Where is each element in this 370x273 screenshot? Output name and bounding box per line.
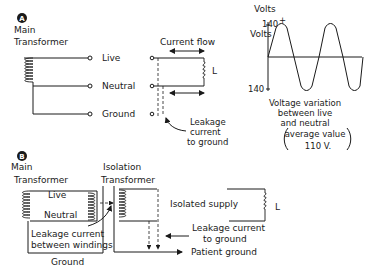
electrical-isolation-diagram: A Main Transformer Live Neutral Ground C… (0, 0, 370, 273)
leakage-label-2: current (190, 127, 221, 137)
leakage-label-1: Leakage (190, 117, 226, 127)
main-transformer-label-2: Transformer (13, 37, 68, 47)
graph-caption-1: Voltage variation (269, 98, 341, 108)
transformer-coil-icon (25, 58, 33, 82)
ground-label-b: Ground (51, 257, 84, 267)
leakage-label-3: to ground (187, 137, 228, 147)
graph-bottom-value: 140 (248, 84, 264, 94)
main-transformer-label-b-2: Transformer (13, 175, 68, 185)
isolation-transformer-label: Isolation (103, 162, 141, 172)
current-flow-label: Current flow (160, 37, 215, 47)
isolation-transformer-label-2: Transformer (100, 175, 155, 185)
live-label-b: Live (48, 190, 67, 200)
badge-b: B (19, 153, 24, 161)
terminal-live: Live (102, 53, 121, 63)
panel-b: B Main Transformer Isolation Transformer… (11, 151, 280, 267)
primary-coil-icon (88, 193, 95, 220)
main-transformer-label-b: Main (11, 162, 33, 172)
graph-caption-4: average value (285, 129, 346, 139)
voltage-graph: Volts 140 + Volts 140 Voltage variation … (248, 4, 363, 151)
neutral-label-b: Neutral (44, 210, 77, 220)
load-label-b: L (275, 202, 280, 212)
terminal-ground: Ground (102, 109, 135, 119)
graph-caption-5: 110 V. (305, 141, 331, 151)
secondary-coil-icon (119, 190, 126, 217)
graph-caption-3: and neutral (280, 118, 329, 128)
leakage-ground-2: to ground (203, 234, 247, 244)
leakage-windings-1: Leakage current (31, 229, 105, 239)
graph-axis-label: Volts (254, 4, 276, 14)
graph-caption-2: between live (278, 108, 332, 118)
load-label-a: L (212, 66, 217, 76)
panel-a: A Main Transformer Live Neutral Ground C… (13, 4, 363, 151)
main-transformer-label: Main (14, 25, 36, 35)
main-coil-icon (23, 191, 31, 218)
isolated-supply-label: Isolated supply (170, 199, 239, 209)
badge-a: A (19, 15, 25, 23)
leakage-windings-2: between windings (31, 240, 113, 250)
leakage-ground-1: Leakage current (192, 223, 266, 233)
graph-top-unit: Volts (250, 29, 272, 39)
terminal-neutral: Neutral (102, 81, 135, 91)
patient-ground-label: Patient ground (191, 247, 257, 257)
